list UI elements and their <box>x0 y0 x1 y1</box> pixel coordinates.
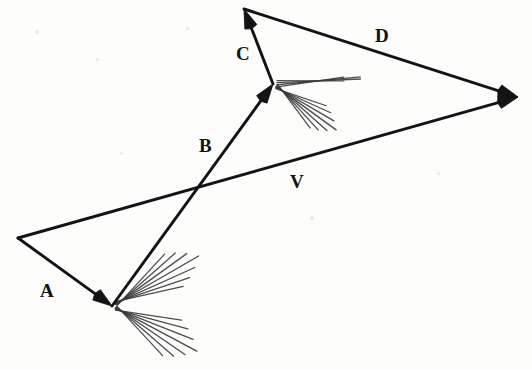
vector-arrow-layer <box>18 9 518 306</box>
paper-speck <box>186 27 189 30</box>
vector-V <box>18 96 518 238</box>
vector-arrowhead-V <box>498 96 518 108</box>
vector-B <box>112 84 273 306</box>
vector-arrowhead-D <box>498 85 518 97</box>
paper-speck <box>437 172 440 175</box>
hatch-group-lower-junction <box>115 253 199 356</box>
vector-shaft-V <box>18 100 508 238</box>
vector-shaft-B <box>112 92 267 306</box>
hatch-mark-layer <box>115 77 360 356</box>
vector-label-V: V <box>290 172 304 191</box>
vector-label-B: B <box>199 136 212 155</box>
hatch-line <box>116 308 197 351</box>
paper-speck <box>120 152 123 155</box>
vector-diagram-figure: ABCDV <box>0 0 532 370</box>
vector-arrowhead-B <box>257 84 273 103</box>
paper-speck <box>35 30 39 34</box>
vector-diagram-canvas <box>0 0 532 370</box>
hatch-line <box>278 85 310 128</box>
hatch-line <box>116 307 185 354</box>
vector-label-C: C <box>236 44 250 63</box>
vector-A <box>18 238 112 306</box>
vector-label-D: D <box>375 26 389 45</box>
hatch-group-middle-junction <box>276 77 361 131</box>
paper-speck <box>310 216 314 220</box>
vector-label-A: A <box>40 281 54 300</box>
vector-shaft-A <box>18 238 104 300</box>
paper-speck <box>96 58 99 61</box>
vector-arrowhead-A <box>93 290 112 306</box>
